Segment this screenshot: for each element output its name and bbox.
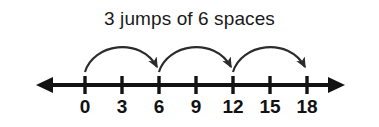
tick-label-18: 18 [287,96,327,118]
tick-label-6: 6 [139,96,179,118]
curved-jump-arrow-icon-2 [159,47,231,72]
tick-label-3: 3 [102,96,142,118]
curved-jump-arrow-icon-3 [233,47,305,72]
curved-jump-arrow-icon-1 [85,47,157,72]
tick-label-12: 12 [213,96,253,118]
tick-label-9: 9 [176,96,216,118]
number-line-diagram: 3 jumps of 6 spaces [0,0,379,127]
jump-arcs-group [85,47,305,72]
left-arrowhead-icon [36,77,53,93]
axis-line-group [36,77,345,93]
tick-label-0: 0 [65,96,105,118]
tick-label-15: 15 [250,96,290,118]
right-arrowhead-icon [328,77,345,93]
